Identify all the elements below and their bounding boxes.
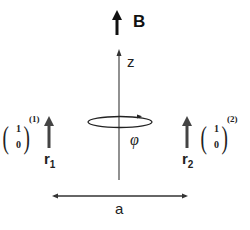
z-axis <box>117 49 122 180</box>
spin-1-vector-bottom: 0 <box>16 139 21 150</box>
spin-2-vector-top: 1 <box>214 123 219 134</box>
spin-1-vector-top: 1 <box>16 123 21 134</box>
svg-text:(: ( <box>2 119 8 155</box>
spin-1-superscript: (1) <box>29 114 40 124</box>
rotation-angle-label: φ <box>130 131 139 149</box>
spin-2-superscript: (2) <box>227 114 238 124</box>
field-label: B <box>133 12 145 31</box>
spin-2-position-label: r2 <box>182 150 194 170</box>
rotation-loop-icon <box>88 115 152 128</box>
magnetic-field-arrow-icon <box>112 10 122 35</box>
spin-2-arrow-icon <box>182 116 192 148</box>
spin-1-arrow-icon <box>44 116 54 148</box>
spin-1-position-label: r1 <box>44 150 56 170</box>
spin-2-state-vector: ( 1 0 ) (2) <box>200 114 237 155</box>
svg-text:(: ( <box>200 119 206 155</box>
two-spin-diagram: B z φ ( 1 0 ) (1) r1 ( 1 0 ) (2) r2 <box>0 0 250 230</box>
distance-arrow-icon <box>52 194 188 199</box>
spin-1-state-vector: ( 1 0 ) (1) <box>2 114 39 155</box>
spin-2-vector-bottom: 0 <box>214 139 219 150</box>
axis-label: z <box>127 53 135 70</box>
svg-text:): ) <box>221 119 227 155</box>
svg-text:): ) <box>23 119 29 155</box>
distance-label: a <box>115 200 124 217</box>
